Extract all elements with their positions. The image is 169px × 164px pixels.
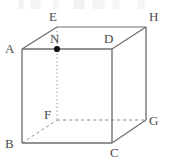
vertex-label-E: E: [49, 10, 57, 23]
edge-CG: [112, 120, 146, 143]
vertex-label-G: G: [149, 114, 158, 127]
cube-drawing: [0, 0, 169, 164]
vertex-label-H: H: [149, 10, 158, 23]
edge-DH: [112, 27, 146, 49]
edge-BF: [22, 120, 57, 143]
vertex-label-A: A: [5, 42, 14, 55]
vertex-label-C: C: [110, 146, 119, 159]
vertex-label-F: F: [44, 108, 51, 121]
geometry-figure: A B C D E F G H N: [0, 0, 169, 164]
point-label-N: N: [50, 32, 59, 45]
vertex-label-B: B: [5, 137, 14, 150]
point-N-marker: [54, 46, 60, 52]
vertex-label-D: D: [104, 32, 113, 45]
